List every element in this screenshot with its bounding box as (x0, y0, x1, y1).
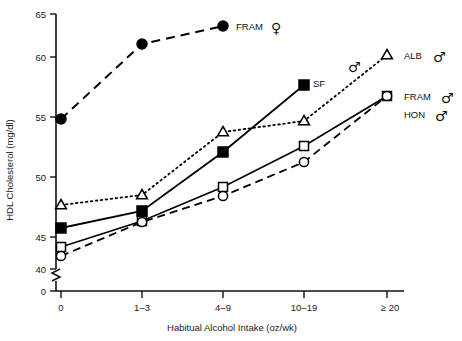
y-tick-label-45: 45 (35, 232, 46, 243)
y-tick-label-65: 65 (35, 9, 46, 20)
hdl-alcohol-chart: 65 60 55 50 45 40 0 0 1–3 4–9 10–19 ≥ 20… (0, 0, 462, 341)
legend-label-fram-female: FRAM (236, 21, 263, 32)
male-symbol-fram: ♂ (441, 90, 454, 106)
y-tick-label-50: 50 (35, 172, 46, 183)
y-tick-label-55: 55 (35, 112, 46, 123)
male-symbol-alb: ♂ (433, 49, 446, 65)
legend-label-alb-male: ALB (404, 50, 422, 61)
legend: FRAM ♀ ♂ SF ALB ♂ FRAM ♂ HON ♂ (236, 20, 454, 124)
legend-item-alb-male: ALB ♂ (404, 49, 446, 65)
data-point-hon-male-0 (57, 243, 66, 252)
data-point-fram-female-0 (56, 114, 66, 124)
y-axis-break-icon (52, 269, 60, 281)
series-hon-male (57, 92, 392, 252)
x-tick-label-4-9: 4–9 (215, 302, 231, 313)
legend-item-hon-male: HON ♂ (404, 108, 448, 124)
legend-item-fram-female: FRAM ♀ (236, 20, 281, 36)
data-point-alb-male-0 (56, 200, 67, 209)
data-point-fram-male-0 (56, 251, 65, 260)
data-point-sf-male-0 (56, 223, 66, 233)
series-fram-male (56, 91, 391, 260)
y-tick-label-0: 0 (41, 286, 46, 297)
data-point-alb-male-ge20 (382, 50, 393, 59)
data-point-fram-female-1-3 (137, 39, 147, 49)
male-symbol-hon: ♂ (435, 108, 448, 124)
data-point-fram-male-4-9 (218, 191, 227, 200)
y-tick-marks (50, 14, 56, 291)
data-point-sf-male-1-3 (137, 206, 147, 216)
data-point-sf-male-4-9 (218, 147, 228, 157)
data-point-alb-male-4-9 (218, 127, 229, 136)
y-axis-title: HDL Cholesterol (mg/dl) (4, 119, 15, 221)
series-fram-female (56, 21, 228, 124)
female-symbol-fram: ♀ (271, 20, 281, 36)
legend-item-fram-male: FRAM ♂ (404, 90, 454, 106)
data-point-fram-male-1-3 (137, 217, 146, 226)
x-tick-label-1-3: 1–3 (134, 302, 150, 313)
data-point-fram-female-4-9 (218, 21, 228, 31)
x-axis-title: Habitual Alcohol Intake (oz/wk) (167, 322, 297, 333)
data-point-alb-male-1-3 (137, 190, 148, 199)
x-tick-marks (61, 291, 387, 298)
series-line-hon-male (61, 96, 387, 247)
data-point-fram-male-ge20 (382, 91, 391, 100)
legend-label-fram-male: FRAM (404, 91, 431, 102)
series-sf-male (56, 80, 309, 233)
x-tick-label-0: 0 (58, 302, 63, 313)
male-symbol-sf: ♂ (348, 59, 361, 75)
data-point-hon-male-10-19 (300, 142, 309, 151)
legend-label-sf-male: SF (313, 78, 325, 89)
series-line-sf-male (61, 85, 304, 228)
data-point-hon-male-4-9 (219, 183, 228, 192)
y-tick-label-40: 40 (35, 264, 46, 275)
data-point-sf-male-10-19 (299, 80, 309, 90)
data-point-fram-male-10-19 (299, 157, 308, 166)
x-tick-label-ge20: ≥ 20 (381, 302, 399, 313)
legend-item-sf-male: ♂ SF (313, 59, 361, 89)
y-tick-label-60: 60 (35, 52, 46, 63)
x-tick-label-10-19: 10–19 (291, 302, 317, 313)
legend-label-hon-male: HON (404, 109, 425, 120)
chart-svg: 65 60 55 50 45 40 0 0 1–3 4–9 10–19 ≥ 20… (0, 0, 462, 341)
